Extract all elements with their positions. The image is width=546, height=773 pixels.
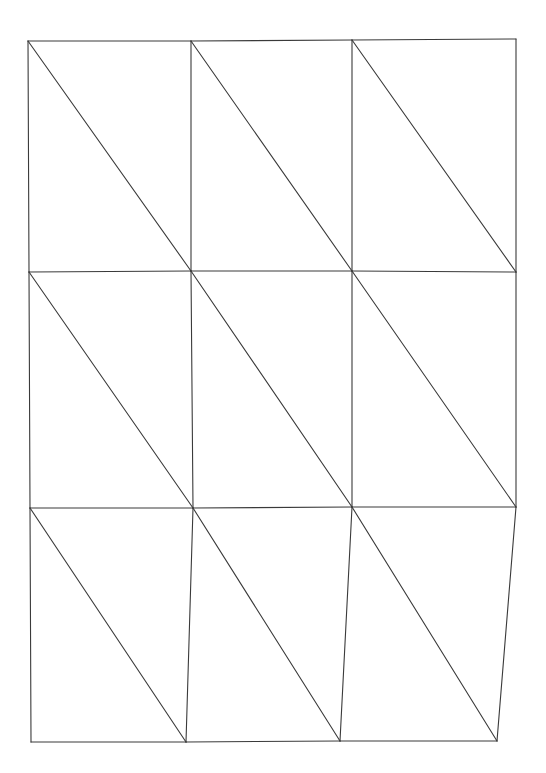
vertical-line <box>497 507 516 741</box>
vertical-line <box>340 507 352 741</box>
diagonal-lines <box>28 40 516 742</box>
horizontal-line <box>352 271 516 272</box>
vertical-line <box>191 271 193 508</box>
horizontal-line <box>186 741 340 742</box>
vertical-line <box>30 508 31 742</box>
horizontal-line <box>191 40 352 41</box>
cell-diagonal-line <box>352 507 497 741</box>
cell-diagonal-line <box>30 508 186 742</box>
horizontal-line <box>29 271 191 272</box>
vertical-line <box>186 508 193 742</box>
cell-diagonal-line <box>191 271 352 507</box>
cell-diagonal-line <box>193 508 340 741</box>
vertical-line <box>28 41 29 272</box>
cell-diagonal-line <box>29 272 193 508</box>
cell-diagonal-line <box>352 271 516 507</box>
cell-diagonal-line <box>191 41 352 271</box>
vertical-line <box>29 272 30 508</box>
horizontal-line <box>352 39 516 40</box>
cell-diagonal-line <box>352 40 516 272</box>
cell-diagonal-line <box>28 41 191 271</box>
horizontal-line <box>193 507 352 508</box>
triangle-grid-diagram <box>0 0 546 773</box>
